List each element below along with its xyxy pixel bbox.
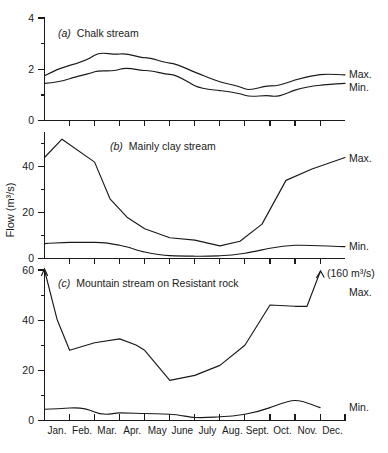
panel-b-max-curve <box>45 139 346 246</box>
panel-a-x-ticks <box>70 121 321 127</box>
panel-a-ytick-0: 0 <box>28 114 34 126</box>
month-label-nov: Nov. <box>298 425 318 436</box>
panel-c-axes <box>45 270 346 421</box>
panel-b-min-curve <box>45 242 346 256</box>
panel-b-y-ticks <box>38 144 45 259</box>
figure-canvas: Flow (m³/s) 0 2 4 <box>0 0 388 453</box>
panel-c-max-label: Max. <box>349 286 372 298</box>
panel-chalk-stream: 0 2 4 (a)Chalk stream <box>28 12 372 127</box>
panel-a-max-label: Max. <box>349 68 372 80</box>
panel-b-title: (b)Mainly clay stream <box>110 140 216 152</box>
panel-c-y-ticks <box>38 270 45 421</box>
month-label-june: June <box>171 425 193 436</box>
month-label-aug: Aug. <box>222 425 243 436</box>
month-label-oct: Oct. <box>273 425 291 436</box>
stream-flow-figure: Flow (m³/s) 0 2 4 <box>0 0 388 453</box>
panel-b-title-text: Mainly clay stream <box>129 140 216 152</box>
panel-b-ytick-40: 40 <box>22 160 34 172</box>
panel-c-annotation-160: (160 m³/s) <box>327 267 375 279</box>
y-axis-label: Flow (m³/s) <box>4 183 16 238</box>
panel-c-ytick-40: 40 <box>22 314 34 326</box>
panel-a-y-ticks <box>38 18 45 121</box>
panel-c-title-text: Mountain stream on Resistant rock <box>76 277 239 289</box>
panel-a-ytick-2: 2 <box>28 63 34 75</box>
panel-a-title: (a)Chalk stream <box>58 27 139 39</box>
month-label-feb: Feb. <box>72 425 92 436</box>
panel-a-title-text: Chalk stream <box>77 27 139 39</box>
panel-c-dec-arrowhead <box>316 271 324 278</box>
panel-b-marker: (b) <box>110 140 123 152</box>
panel-c-ytick-60: 60 <box>22 264 34 276</box>
month-label-july: July <box>198 425 216 436</box>
panel-b-ytick-20: 20 <box>22 206 34 218</box>
panel-a-max-curve <box>45 53 346 90</box>
panel-mountain-stream: 0 20 40 60 (c)Mountain stream on Res <box>22 264 375 427</box>
panel-b-min-label: Min. <box>349 240 369 252</box>
panel-c-ytick-20: 20 <box>22 364 34 376</box>
month-label-jan: Jan. <box>48 425 67 436</box>
month-label-mar: Mar. <box>97 425 116 436</box>
panel-c-title: (c)Mountain stream on Resistant rock <box>58 277 239 289</box>
month-axis-labels: Jan. Feb. Mar. Apr. May June July Aug. S… <box>48 425 343 436</box>
panel-c-ytick-0: 0 <box>28 414 34 426</box>
panel-b-ytick-0: 0 <box>28 252 34 264</box>
panel-c-marker: (c) <box>58 277 70 289</box>
month-label-apr: Apr. <box>123 425 141 436</box>
month-label-sept: Sept. <box>246 425 269 436</box>
panel-c-min-label: Min. <box>349 401 369 413</box>
month-label-dec: Dec. <box>322 425 343 436</box>
panel-a-ytick-4: 4 <box>28 12 34 24</box>
panel-a-min-label: Min. <box>349 81 369 93</box>
panel-clay-stream: 0 20 40 (b)Mainly clay stream <box>22 132 371 264</box>
panel-a-marker: (a) <box>58 27 71 39</box>
panel-c-min-curve <box>45 401 321 418</box>
month-label-may: May <box>148 425 167 436</box>
panel-b-max-label: Max. <box>349 152 372 164</box>
panel-b-x-ticks <box>70 259 321 265</box>
